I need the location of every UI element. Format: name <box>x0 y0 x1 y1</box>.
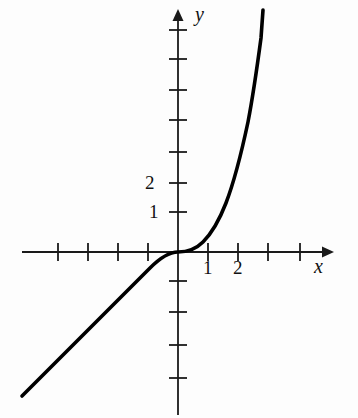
function-curve <box>22 10 263 396</box>
y-axis-arrow-icon <box>173 9 184 21</box>
coordinate-plot <box>0 0 358 418</box>
x-axis-tick-label-1: 1 <box>203 258 213 277</box>
y-axis-label: y <box>195 4 204 24</box>
x-axis-label: x <box>314 256 323 276</box>
y-axis <box>169 9 187 415</box>
x-axis-tick-label-2: 2 <box>233 258 243 277</box>
graph-figure: 2 1 1 2 x y <box>0 0 358 418</box>
y-axis-tick-label-1: 1 <box>149 202 159 221</box>
y-axis-tick-label-2: 2 <box>145 173 155 192</box>
x-axis-arrow-icon <box>322 247 334 258</box>
